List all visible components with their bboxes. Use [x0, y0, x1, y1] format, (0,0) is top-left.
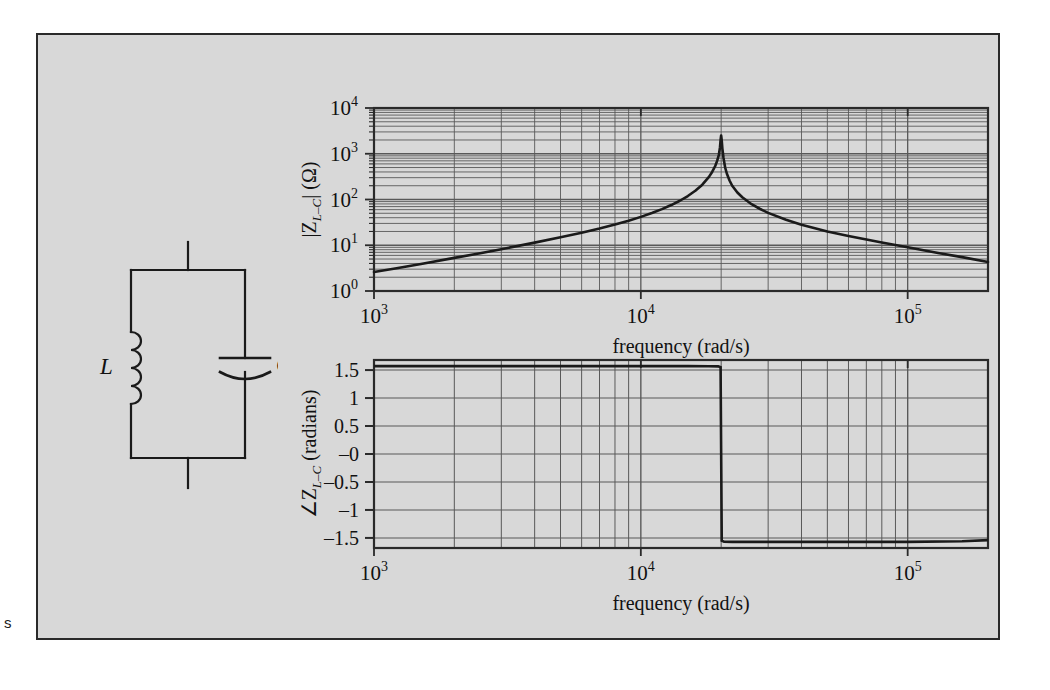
y-tick-label: –0.5 [323, 471, 359, 493]
phase-bode-plot: –1.5–1–0.5–00.511.5103104105frequency (r… [294, 340, 994, 620]
x-axis-title: frequency (rad/s) [612, 592, 749, 615]
x-tick-label: 103 [360, 559, 388, 585]
figure-frame: L C 100101102103104103104105frequency (r… [36, 33, 1000, 640]
magnitude-bode-plot: 100101102103104103104105frequency (rad/s… [294, 63, 994, 338]
y-tick-label: 104 [330, 94, 358, 120]
y-axis-title: |ZL–C| (Ω) [298, 162, 324, 238]
x-tick-labels: 103104105 [360, 302, 922, 328]
x-tick-label: 104 [627, 559, 655, 585]
y-tick-label: 102 [330, 186, 358, 212]
x-tick-label: 105 [894, 302, 922, 328]
y-tick-label: 0.5 [334, 415, 359, 437]
inductor-icon [131, 332, 141, 404]
y-tick-label: 100 [330, 277, 358, 303]
parallel-lc-circuit-diagram: L C [98, 240, 278, 490]
y-tick-label: 1 [349, 387, 359, 409]
capacitor-label: C [276, 352, 278, 377]
margin-note: s [4, 614, 12, 631]
inductor-label: L [99, 354, 113, 379]
y-tick-label: –1.5 [323, 527, 359, 549]
y-tick-label: 101 [330, 231, 358, 257]
y-tick-labels: 100101102103104 [330, 94, 358, 303]
y-tick-label: –1 [338, 499, 359, 521]
grid-lines [374, 360, 988, 548]
y-tick-label: 103 [330, 140, 358, 166]
x-tick-label: 105 [894, 559, 922, 585]
y-tick-labels: –1.5–1–0.5–00.511.5 [323, 359, 359, 549]
x-tick-labels: 103104105 [360, 559, 922, 585]
x-tick-label: 103 [360, 302, 388, 328]
y-tick-label: 1.5 [334, 359, 359, 381]
y-axis-title: ∠ZL–C (radians) [298, 390, 324, 519]
x-tick-label: 104 [627, 302, 655, 328]
y-tick-label: –0 [338, 443, 359, 465]
axis-ticks [365, 360, 908, 556]
